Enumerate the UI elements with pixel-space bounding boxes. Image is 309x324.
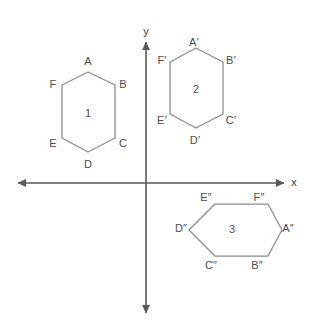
vertex-label-C-double-prime: C″: [205, 259, 217, 271]
axes-group: [18, 42, 284, 313]
vertex-label-F-double-prime: F″: [253, 191, 264, 203]
y-axis-label: y: [143, 25, 149, 37]
hexagon-3-outline: [189, 204, 282, 256]
vertex-label-D: D: [84, 158, 92, 170]
geometry-svg: [0, 0, 309, 324]
x-axis-label: x: [291, 176, 297, 188]
vertex-label-E-double-prime: E″: [200, 191, 212, 203]
diagram-canvas: x y 1ABCDEF2A′B′C′D′E′F′3E″F″A″B″C″D″: [0, 0, 309, 324]
hexagon-2-number: 2: [193, 83, 199, 95]
hexagon-1-number: 1: [85, 107, 91, 119]
vertex-label-A-double-prime: A″: [282, 222, 294, 234]
vertex-label-A: A: [84, 55, 92, 67]
vertex-label-F-prime: F′: [157, 54, 166, 66]
vertex-label-F: F: [50, 78, 57, 90]
vertex-label-B: B: [119, 78, 127, 90]
hexagon-3-number: 3: [229, 223, 235, 235]
vertex-label-B-double-prime: B″: [251, 259, 263, 271]
vertex-label-A-prime: A′: [189, 36, 199, 48]
vertex-label-D-prime: D′: [190, 134, 200, 146]
vertex-label-E: E: [49, 137, 57, 149]
vertex-label-D-double-prime: D″: [175, 222, 187, 234]
hexagons-group: [62, 48, 282, 256]
vertex-label-C: C: [119, 137, 127, 149]
vertex-label-E-prime: E′: [157, 114, 167, 126]
vertex-label-C-prime: C′: [226, 114, 236, 126]
vertex-label-B-prime: B′: [226, 54, 236, 66]
